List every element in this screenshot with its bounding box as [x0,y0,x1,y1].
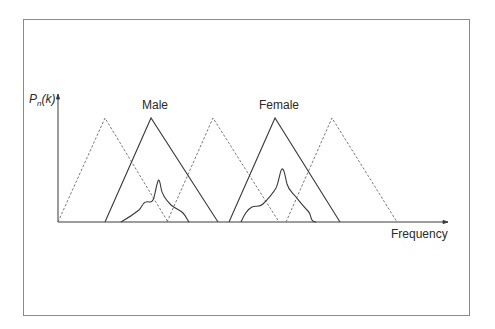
y-axis-label: Pn(k) [29,92,55,108]
axes [57,94,449,224]
mel-filterbank-diagram [0,0,495,329]
filter-triangle-dashed-2 [167,118,279,222]
female-spectrum [241,169,316,222]
filter-triangle-male [105,118,218,222]
y-axis-arrow-icon [57,94,60,99]
filter-triangle-female [229,118,340,222]
filter-triangle-dashed-1 [58,118,168,222]
filter-triangle-dashed-3 [286,118,397,222]
male-label: Male [142,98,168,112]
x-axis-arrow-icon [443,221,448,224]
x-axis-label: Frequency [391,227,448,241]
female-label: Female [259,98,299,112]
